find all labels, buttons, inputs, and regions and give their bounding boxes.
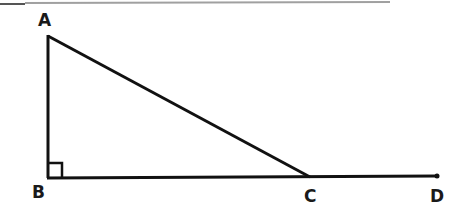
- point-label-a: A: [38, 12, 51, 29]
- segment-ac: [48, 36, 310, 177]
- top-rule-light: [25, 2, 390, 3]
- point-label-d: D: [430, 188, 444, 205]
- point-d-dot: [435, 174, 440, 179]
- right-angle-marker: [48, 163, 62, 178]
- geometry-diagram: A B C D: [0, 0, 454, 209]
- segment-bd: [47, 176, 437, 178]
- point-label-c: C: [304, 188, 316, 205]
- triangle-figure: [0, 0, 454, 209]
- point-label-b: B: [32, 184, 45, 201]
